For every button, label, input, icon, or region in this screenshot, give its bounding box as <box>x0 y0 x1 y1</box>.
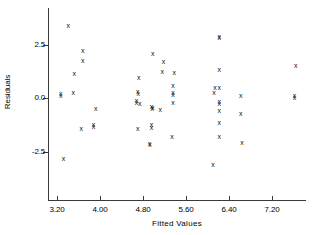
scatter-point: x <box>294 62 298 69</box>
scatter-point: x <box>81 46 85 53</box>
scatter-point: x <box>240 139 244 146</box>
scatter-point: x <box>138 99 142 106</box>
scatter-point: x <box>171 98 175 105</box>
scatter-point: x <box>136 124 140 131</box>
x-axis-line <box>48 200 306 201</box>
scatter-point: x <box>218 132 222 139</box>
scatter-point: x <box>136 90 140 97</box>
scatter-point: x <box>239 110 243 117</box>
y-axis-title: Residuals <box>4 62 12 122</box>
scatter-point: x <box>62 155 66 162</box>
scatter-point: x <box>211 160 215 167</box>
scatter-point: x <box>171 89 175 96</box>
x-axis-tick <box>272 196 273 201</box>
scatter-point: x <box>171 91 175 98</box>
scatter-point: x <box>136 88 140 95</box>
x-axis-tick <box>143 196 144 201</box>
x-axis-tick-label: 4.00 <box>80 206 120 214</box>
scatter-plot-figure: 3.204.004.805.606.407.202.50.0-2.5 Resid… <box>0 0 313 235</box>
scatter-point: x <box>293 93 297 100</box>
scatter-point: x <box>150 121 154 128</box>
x-axis-tick-label: 7.20 <box>252 206 292 214</box>
scatter-point: x <box>135 96 139 103</box>
scatter-point: x <box>148 141 152 148</box>
scatter-point: x <box>218 118 222 125</box>
scatter-point: x <box>148 139 152 146</box>
x-axis-tick-label: 5.60 <box>166 206 206 214</box>
scatter-point: x <box>218 97 222 104</box>
scatter-point: x <box>218 32 222 39</box>
x-axis-tick <box>100 196 101 201</box>
scatter-point: x <box>170 133 174 140</box>
scatter-point: x <box>137 73 141 80</box>
y-axis-tick-label: 2.5 <box>5 41 45 49</box>
scatter-point: x <box>151 103 155 110</box>
scatter-point: x <box>218 83 222 90</box>
scatter-point: x <box>92 121 96 128</box>
y-axis-tick-label: -2.5 <box>5 148 45 156</box>
scatter-point: x <box>161 67 165 74</box>
scatter-point: x <box>239 92 243 99</box>
scatter-point: x <box>218 100 222 107</box>
scatter-point: x <box>150 123 154 130</box>
scatter-point: x <box>150 105 154 112</box>
scatter-point: x <box>71 89 75 96</box>
scatter-point: x <box>162 58 166 65</box>
scatter-point: x <box>81 56 85 63</box>
scatter-point: x <box>171 81 175 88</box>
x-axis-tick-label: 4.80 <box>123 206 163 214</box>
scatter-point: x <box>172 68 176 75</box>
y-axis-line <box>48 8 49 200</box>
scatter-point: x <box>213 83 217 90</box>
x-axis-tick-label: 3.20 <box>37 206 77 214</box>
scatter-point: x <box>59 90 63 97</box>
scatter-point: x <box>59 92 63 99</box>
x-axis-tick-label: 6.40 <box>209 206 249 214</box>
scatter-point: x <box>67 21 71 28</box>
scatter-point: x <box>151 49 155 56</box>
scatter-point: x <box>293 91 297 98</box>
scatter-point: x <box>150 103 154 110</box>
x-axis-tick <box>186 196 187 201</box>
x-axis-title: Fitted Values <box>48 220 306 228</box>
scatter-point: x <box>94 105 98 112</box>
scatter-point: x <box>72 69 76 76</box>
scatter-point: x <box>218 107 222 114</box>
scatter-point: x <box>92 123 96 130</box>
x-axis-tick <box>57 196 58 201</box>
scatter-point: x <box>212 89 216 96</box>
scatter-point: x <box>218 66 222 73</box>
scatter-point: x <box>79 125 83 132</box>
x-axis-tick <box>229 196 230 201</box>
scatter-point: x <box>218 34 222 41</box>
scatter-point: x <box>158 106 162 113</box>
scatter-point: x <box>135 98 139 105</box>
